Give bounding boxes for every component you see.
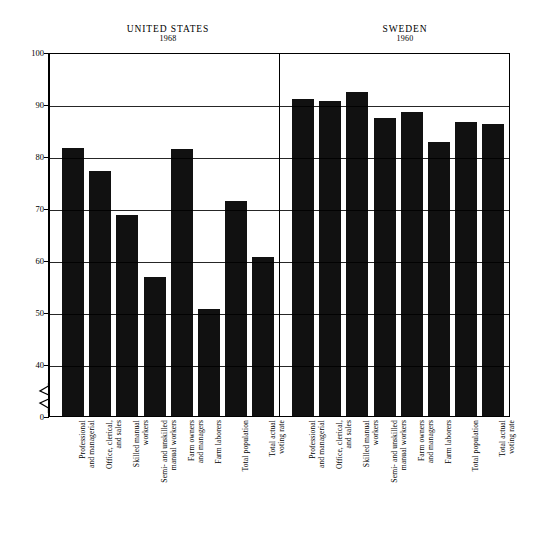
y-axis-tick-label: 60 — [0, 257, 49, 266]
gridline-70 — [50, 210, 509, 211]
x-axis-label: Office, clerical, and sales — [106, 420, 122, 532]
x-axis-label: Total actual voting rate — [269, 420, 285, 532]
y-axis-tick-label: 80 — [0, 153, 49, 162]
x-axis-label: Farm laborers — [445, 420, 461, 532]
x-axis-label: Semi- and unskilled manual workers — [161, 420, 177, 532]
bar — [346, 92, 368, 416]
y-axis-tick-label: 90 — [0, 101, 49, 110]
bars-layer — [50, 54, 509, 416]
bar — [144, 277, 166, 416]
x-axis-label: Professional and managerial — [79, 420, 95, 532]
y-axis-tick-mark — [44, 417, 49, 418]
y-axis-tick-label: 50 — [0, 309, 49, 318]
x-axis-label: Total actual voting rate — [499, 420, 515, 532]
panel-header-sweden: SWEDEN 1960 — [330, 24, 480, 44]
bar — [319, 101, 341, 416]
y-axis-tick-label: 40 — [0, 361, 49, 370]
bar — [374, 118, 396, 416]
panel-header-united-states: UNITED STATES 1968 — [88, 24, 248, 44]
x-axis-label: Farm owners and managers — [418, 420, 434, 532]
y-axis-tick-label: 100 — [0, 49, 49, 58]
panel-year-label: 1968 — [88, 35, 248, 44]
panel-year-label: 1960 — [330, 35, 480, 44]
bar — [89, 171, 111, 416]
x-axis-label: Farm owners and managers — [188, 420, 204, 532]
bar — [455, 122, 477, 416]
x-axis-label: Farm laborers — [215, 420, 231, 532]
bar — [252, 257, 274, 416]
bar — [116, 215, 138, 416]
gridline-90 — [50, 106, 509, 107]
x-axis-label: Skilled manual workers — [363, 420, 379, 532]
gridline-40 — [50, 366, 509, 367]
x-axis-label: Skilled manual workers — [133, 420, 149, 532]
gridline-80 — [50, 158, 509, 159]
bar — [171, 149, 193, 416]
x-axis-labels: Professional and managerialOffice, cleri… — [0, 420, 535, 539]
y-axis-tick-label: 70 — [0, 205, 49, 214]
bar — [62, 148, 84, 416]
bar — [225, 201, 247, 416]
gridline-60 — [50, 262, 509, 263]
bar — [428, 142, 450, 416]
x-axis-label: Total population — [242, 420, 258, 532]
x-axis-label: Office, clerical, and sales — [336, 420, 352, 532]
plot-area — [49, 53, 510, 417]
x-axis-label: Professional and managerial — [309, 420, 325, 532]
bar — [198, 309, 220, 416]
gridline-50 — [50, 314, 509, 315]
x-axis-label: Semi- and unskilled manual workers — [391, 420, 407, 532]
chart-figure: UNITED STATES 1968 SWEDEN 1960 100908070… — [0, 0, 535, 539]
bar — [292, 99, 314, 416]
bar — [482, 124, 504, 416]
x-axis-label: Total population — [472, 420, 488, 532]
